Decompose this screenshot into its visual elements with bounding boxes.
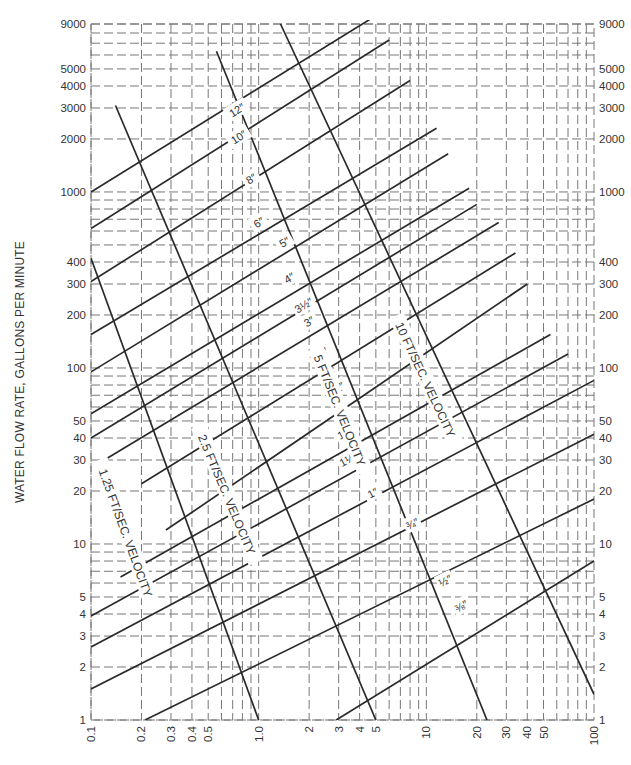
x-tick-label: 50: [538, 726, 550, 739]
x-tick-label: 0.5: [202, 726, 214, 742]
x-tick-label: 2: [303, 726, 315, 732]
y-tick-label-left: 5: [80, 591, 86, 603]
y-tick-label-right: 300: [599, 278, 618, 290]
x-tick-label: 10: [420, 726, 432, 739]
y-tick-label-right: 40: [599, 432, 612, 444]
y-axis-right-ticks: 9000500040003000200010004003002001005040…: [599, 18, 625, 726]
x-tick-label: 0.4: [186, 725, 198, 742]
x-tick-label: 0.3: [165, 726, 177, 742]
line-label: 1″: [361, 482, 383, 503]
label-text: 1.25 FT/SEC. VELOCITY: [96, 467, 155, 599]
y-tick-label-left: 20: [73, 485, 86, 497]
y-tick-label-left: 5000: [60, 63, 86, 75]
y-tick-label-right: 9000: [599, 18, 625, 30]
y-tick-label-right: 30: [599, 454, 612, 466]
y-tick-label-right: 3000: [599, 102, 625, 114]
y-tick-label-left: 2: [80, 661, 86, 673]
grid-lines: [91, 24, 594, 720]
x-tick-label: 30: [500, 726, 512, 739]
x-tick-label: 4: [354, 725, 366, 732]
x-tick-label: 5: [370, 726, 382, 732]
x-tick-label: 0.1: [85, 726, 97, 742]
y-tick-label-right: 100: [599, 362, 618, 374]
x-tick-label: 40: [521, 726, 533, 739]
pipe-line: [145, 499, 594, 720]
y-tick-label-left: 50: [73, 415, 86, 427]
y-tick-label-left: 9000: [60, 18, 86, 30]
y-tick-label-left: 40: [73, 432, 86, 444]
y-tick-label-right: 4: [599, 608, 606, 620]
pipe-line: [121, 334, 551, 576]
pipe-line: [91, 154, 448, 372]
y-tick-label-left: 300: [67, 278, 86, 290]
y-tick-label-right: 20: [599, 485, 612, 497]
velocity-line: [216, 51, 487, 720]
y-tick-label-left: 3: [80, 630, 86, 642]
y-tick-label-right: 1: [599, 714, 605, 726]
plot-frame: [91, 24, 594, 720]
y-tick-label-left: 200: [67, 309, 86, 321]
y-tick-label-left: 4: [80, 608, 87, 620]
y-tick-label-right: 10: [599, 538, 612, 550]
x-tick-label: 0.2: [135, 726, 147, 742]
y-tick-label-right: 2: [599, 661, 605, 673]
y-tick-label-left: 100: [67, 362, 86, 374]
line-label: ⅜″: [450, 595, 473, 617]
pipe-flow-velocity-chart: 9000500040003000200010004003002001005040…: [0, 0, 631, 765]
y-tick-label-right: 1000: [599, 186, 625, 198]
y-tick-label-right: 50: [599, 415, 612, 427]
x-axis-ticks: 0.10.20.30.40.51.023451020304050100: [85, 725, 600, 745]
pipe-size-lines: [91, 17, 594, 720]
x-tick-label: 3: [333, 726, 345, 732]
line-label: 1.25 FT/SEC. VELOCITY: [92, 457, 160, 608]
line-label: ½″: [434, 570, 456, 591]
y-axis-left-ticks: 9000500040003000200010004003002001005040…: [60, 18, 86, 726]
y-tick-label-right: 4000: [599, 80, 625, 92]
x-tick-label: 1.0: [253, 726, 265, 742]
line-label: 4″: [278, 267, 300, 289]
y-tick-label-right: 5000: [599, 63, 625, 75]
y-tick-label-right: 400: [599, 256, 618, 268]
pipe-line: [91, 434, 594, 689]
plot-border: [91, 24, 594, 720]
y-tick-label-right: 3: [599, 630, 605, 642]
x-tick-label: 20: [471, 726, 483, 739]
y-tick-label-left: 2000: [60, 133, 86, 145]
x-tick-label: 100: [588, 726, 600, 745]
y-tick-label-left: 1000: [60, 186, 86, 198]
y-tick-label-left: 10: [73, 538, 86, 550]
y-tick-label-left: 400: [67, 256, 86, 268]
line-labels: 12″10″8″6″5″4″3½″3″2½″2″1½″1¼″1″¾″½″⅜″1.…: [92, 97, 472, 617]
y-tick-label-right: 5: [599, 591, 605, 603]
y-tick-label-left: 1: [80, 714, 86, 726]
y-tick-label-right: 2000: [599, 133, 625, 145]
velocity-lines: [91, 24, 594, 720]
y-tick-label-left: 4000: [60, 80, 86, 92]
y-tick-label-left: 30: [73, 454, 86, 466]
y-tick-label-right: 200: [599, 309, 618, 321]
y-tick-label-left: 3000: [60, 102, 86, 114]
label-text: 2.5 FT/SEC. VELOCITY: [195, 433, 258, 557]
pipe-line: [336, 561, 594, 720]
